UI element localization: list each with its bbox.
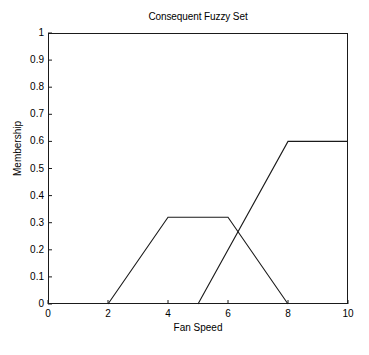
x-tick-label: 8 — [268, 308, 308, 319]
x-axis-label: Fan Speed — [48, 322, 348, 334]
series-line-1 — [198, 141, 348, 304]
series-line-0 — [108, 217, 288, 304]
x-tick-label: 0 — [28, 308, 68, 319]
figure-canvas: Consequent Fuzzy Set 00.10.20.30.40.50.6… — [0, 0, 369, 355]
y-tick-label: 0.5 — [4, 164, 44, 174]
y-tick-label: 0.3 — [4, 218, 44, 228]
x-tick-label: 2 — [88, 308, 128, 319]
y-tick-label: 0.1 — [4, 272, 44, 282]
y-tick-label: 1 — [4, 28, 44, 38]
y-tick-label: 0.8 — [4, 82, 44, 92]
series-plot-area — [48, 33, 348, 304]
x-tick-label: 4 — [148, 308, 188, 319]
y-tick-label: 0.7 — [4, 109, 44, 119]
y-tick-label: 0.6 — [4, 136, 44, 146]
x-axis-ticks: 0246810 — [48, 304, 348, 324]
x-tick-label: 10 — [328, 308, 368, 319]
x-tick-label: 6 — [208, 308, 248, 319]
y-axis-label: Membership — [12, 99, 23, 199]
y-tick-label: 0.2 — [4, 245, 44, 255]
y-tick-label: 0.4 — [4, 191, 44, 201]
y-tick-label: 0.9 — [4, 55, 44, 65]
chart-title: Consequent Fuzzy Set — [48, 11, 348, 23]
